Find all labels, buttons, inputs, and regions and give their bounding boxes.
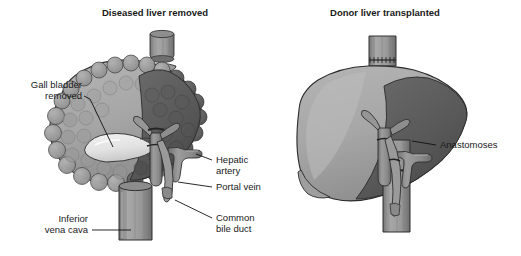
label-inferior-vena-cava-line1: Inferior [58, 213, 88, 224]
liver-transplant-figure: Diseased liver removed [0, 0, 521, 256]
label-hepatic-artery-line1: Hepatic [216, 154, 248, 165]
panel-title-right: Donor liver transplanted [330, 7, 440, 18]
label-hepatic-artery: Hepatic artery [196, 154, 248, 176]
suprahepatic-ivc-anastomosis [369, 36, 396, 66]
label-gall-bladder-removed-line2: removed [45, 90, 82, 101]
panel-diseased-liver: Diseased liver removed [31, 7, 261, 240]
label-inferior-vena-cava-line2: vena cava [45, 224, 89, 235]
label-gall-bladder-removed-line1: Gall bladder [31, 79, 82, 90]
label-common-bile-duct-line2: bile duct [216, 223, 252, 234]
label-inferior-vena-cava: Inferior vena cava [45, 213, 131, 235]
panel-title-left: Diseased liver removed [102, 7, 208, 18]
illustration-canvas: Diseased liver removed [0, 0, 521, 256]
label-hepatic-artery-line2: artery [216, 165, 241, 176]
label-portal-vein: Portal vein [178, 181, 261, 192]
label-common-bile-duct-line1: Common [216, 212, 255, 223]
label-anastomoses-line1: Anastomoses [440, 139, 498, 150]
panel-donor-liver: Donor liver transplanted [297, 7, 498, 232]
label-common-bile-duct: Common bile duct [175, 200, 255, 234]
inferior-vena-cava-trunk-left [119, 181, 152, 240]
label-portal-vein-line1: Portal vein [216, 181, 261, 192]
